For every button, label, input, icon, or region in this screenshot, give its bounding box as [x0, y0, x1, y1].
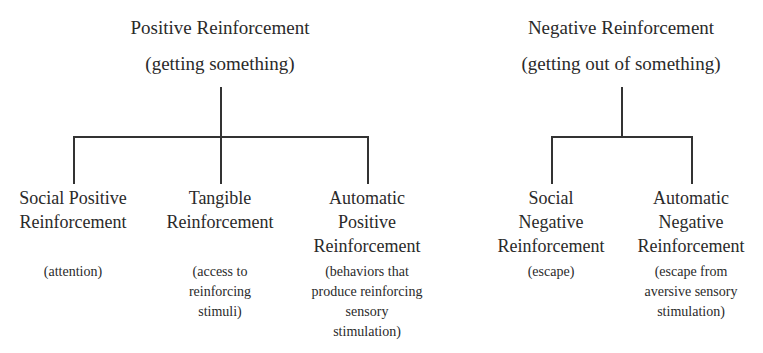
social-negative-reinforcement-desc: (escape): [481, 262, 621, 282]
desc-line: reinforcing: [150, 282, 290, 302]
negative-branch-line: [551, 136, 692, 138]
desc-line: stimulation): [621, 302, 761, 322]
desc-line: (escape from: [621, 262, 761, 282]
desc-line: (escape): [481, 262, 621, 282]
automatic-negative-reinforcement-desc: (escape from aversive sensory stimulatio…: [621, 262, 761, 322]
label-line: Reinforcement: [150, 210, 290, 234]
social-positive-reinforcement-label: Social Positive Reinforcement: [3, 186, 143, 234]
positive-branch-left: [73, 136, 75, 184]
desc-line: produce reinforcing: [292, 282, 442, 302]
label-line: Reinforcement: [621, 234, 761, 258]
label-line: Social Positive: [3, 186, 143, 210]
desc-line: sensory: [292, 302, 442, 322]
desc-line: (behaviors that: [292, 262, 442, 282]
label-line: Automatic: [292, 186, 442, 210]
positive-stem-line: [220, 87, 222, 137]
tangible-reinforcement-desc: (access to reinforcing stimuli): [150, 262, 290, 322]
positive-reinforcement-title: Positive Reinforcement: [70, 10, 370, 46]
automatic-positive-reinforcement-label: Automatic Positive Reinforcement: [292, 186, 442, 258]
desc-line: (access to: [150, 262, 290, 282]
social-positive-reinforcement-desc: (attention): [3, 262, 143, 282]
tangible-reinforcement-label: Tangible Reinforcement: [150, 186, 290, 234]
negative-branch-left: [551, 136, 553, 184]
negative-reinforcement-subtitle: (getting out of something): [471, 46, 763, 82]
positive-branch-center: [220, 136, 222, 184]
positive-branch-right: [367, 136, 369, 184]
automatic-negative-reinforcement-label: Automatic Negative Reinforcement: [621, 186, 761, 258]
desc-line: stimulation): [292, 322, 442, 342]
label-line: Reinforcement: [292, 234, 442, 258]
label-line: Positive: [292, 210, 442, 234]
label-line: Reinforcement: [481, 234, 621, 258]
label-line: Social: [481, 186, 621, 210]
negative-stem-line: [621, 87, 623, 137]
automatic-positive-reinforcement-desc: (behaviors that produce reinforcing sens…: [292, 262, 442, 342]
label-line: Tangible: [150, 186, 290, 210]
social-negative-reinforcement-label: Social Negative Reinforcement: [481, 186, 621, 258]
desc-line: aversive sensory: [621, 282, 761, 302]
label-line: Negative: [481, 210, 621, 234]
label-line: Automatic: [621, 186, 761, 210]
label-line: Negative: [621, 210, 761, 234]
label-line: Reinforcement: [3, 210, 143, 234]
positive-reinforcement-subtitle: (getting something): [70, 46, 370, 82]
desc-line: stimuli): [150, 302, 290, 322]
negative-reinforcement-title: Negative Reinforcement: [471, 10, 763, 46]
desc-line: (attention): [3, 262, 143, 282]
negative-branch-right: [691, 136, 693, 184]
